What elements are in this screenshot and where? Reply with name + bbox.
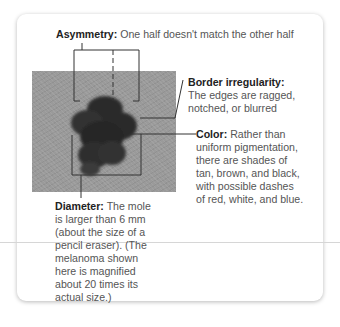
color-label: Color: Rather than uniform pigmentation,… (196, 128, 303, 206)
diameter-label: Diameter: The mole is larger than 6 mm (… (55, 200, 151, 304)
border-label: Border irregularity: The edges are ragge… (188, 76, 295, 115)
